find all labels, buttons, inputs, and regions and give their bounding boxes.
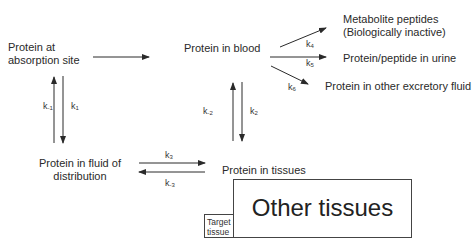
rate-k4: k4 [306, 39, 314, 51]
node-absorption-line2: absorption site [8, 54, 80, 67]
rate-subscript: 5 [311, 62, 314, 68]
node-fluid-of-distribution: Protein in fluid of distribution [39, 157, 121, 183]
arrow-k4 [280, 28, 326, 47]
rate-subscript: 1 [76, 105, 79, 111]
rate-subscript: 4 [311, 43, 314, 49]
rate-k-minus1: k-1 [43, 101, 53, 113]
node-absorption-line1: Protein at [8, 41, 80, 54]
other-tissues-label: Other tissues [234, 194, 411, 222]
node-protein-in-blood: Protein in blood [184, 42, 260, 55]
other-tissues-box: Other tissues [233, 179, 412, 238]
target-tissue-label: Target tissue [207, 217, 231, 237]
rate-subscript: 6 [293, 86, 296, 92]
rate-k2: k2 [250, 106, 258, 118]
node-protein-in-tissues: Protein in tissues [222, 164, 306, 177]
node-fluid-line2: distribution [39, 170, 121, 183]
node-fluid-line1: Protein in fluid of [39, 157, 121, 170]
rate-subscript: 2 [255, 110, 258, 116]
rate-subscript: -3 [170, 182, 175, 188]
rate-k3: k3 [165, 150, 173, 162]
pharmacokinetic-diagram: Protein at absorption site Protein in bl… [0, 0, 476, 248]
target-tissue-line1: Target [207, 217, 231, 227]
node-metabolite-line2: (Biologically inactive) [343, 26, 446, 39]
rate-k1: k1 [71, 101, 79, 113]
node-metabolite-peptides: Metabolite peptides (Biologically inacti… [343, 13, 446, 39]
node-other-excretory-fluid: Protein in other excretory fluid [325, 80, 471, 93]
node-absorption-site: Protein at absorption site [8, 41, 80, 67]
rate-k6: k6 [288, 82, 296, 94]
node-metabolite-line1: Metabolite peptides [343, 13, 446, 26]
target-tissue-box: Target tissue [204, 214, 234, 238]
rate-k5: k5 [306, 58, 314, 70]
node-protein-in-urine: Protein/peptide in urine [343, 52, 456, 65]
rate-subscript: -2 [208, 110, 213, 116]
rate-k-minus2: k-2 [203, 106, 213, 118]
rate-subscript: -1 [48, 105, 53, 111]
rate-subscript: 3 [170, 154, 173, 160]
target-tissue-line2: tissue [207, 227, 231, 237]
rate-k-minus3: k-3 [165, 178, 175, 190]
